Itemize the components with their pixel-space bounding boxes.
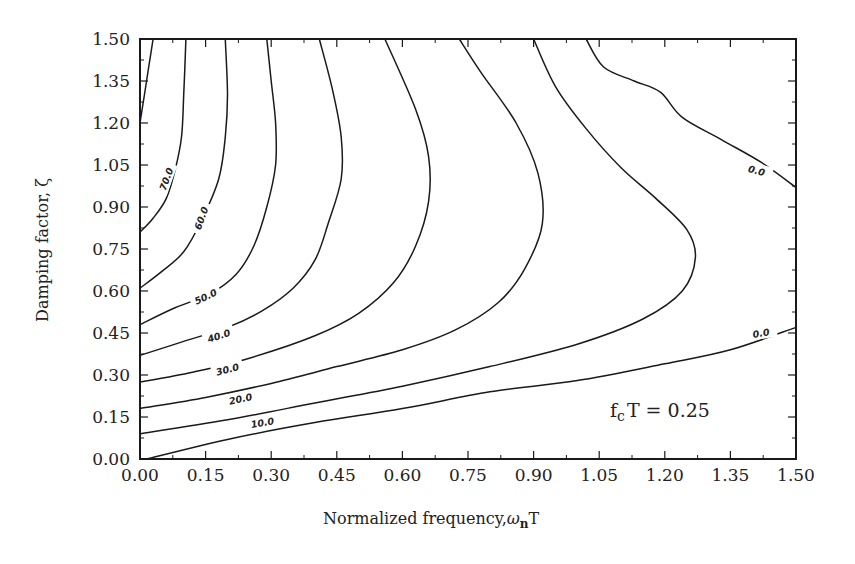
y-tick-label: 1.50 — [92, 29, 130, 49]
y-tick-label: 0.30 — [92, 365, 130, 385]
x-tick-label: 1.50 — [777, 465, 815, 485]
x-tick-label: 0.90 — [515, 465, 553, 485]
contour-labels: 70.060.050.040.030.020.010.00.00.0 — [154, 160, 778, 432]
y-axis-label: Damping factor, ζ — [33, 178, 52, 322]
x-tick-label: 1.35 — [711, 465, 749, 485]
y-tick-label: 0.90 — [92, 197, 130, 217]
contour-label: 50.0 — [193, 287, 219, 307]
contour-line-70 — [140, 39, 186, 232]
y-tick-label: 0.45 — [92, 323, 130, 343]
contour-label: 20.0 — [228, 391, 254, 407]
x-tick-label: 0.15 — [187, 465, 225, 485]
contour-label: 60.0 — [192, 205, 210, 231]
x-axis-ticks: 0.000.150.300.450.600.750.901.051.201.35… — [121, 39, 815, 485]
contour-chart: 70.060.050.040.030.020.010.00.00.0 0.000… — [0, 0, 855, 564]
y-tick-label: 1.05 — [92, 155, 130, 175]
y-tick-label: 0.15 — [92, 407, 130, 427]
x-tick-label: 1.20 — [646, 465, 684, 485]
fct-annotation: fcT = 0.25 — [610, 399, 710, 424]
x-tick-label: 0.60 — [383, 465, 421, 485]
y-tick-label: 0.00 — [92, 449, 130, 469]
y-tick-label: 0.60 — [92, 281, 130, 301]
x-tick-label: 0.75 — [449, 465, 487, 485]
contour-line-40 — [140, 39, 343, 355]
y-tick-label: 0.75 — [92, 239, 130, 259]
x-tick-label: 0.45 — [318, 465, 356, 485]
x-tick-label: 1.05 — [580, 465, 618, 485]
x-axis-label: Normalized frequency,ωnT — [323, 509, 540, 531]
x-tick-label: 0.30 — [252, 465, 290, 485]
contour-label: 40.0 — [205, 327, 232, 345]
y-tick-label: 1.35 — [92, 71, 130, 91]
y-tick-label: 1.20 — [92, 113, 130, 133]
